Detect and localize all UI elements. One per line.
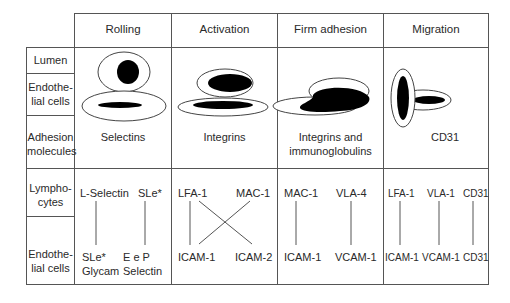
activation-endothelial-0: ICAM-1 bbox=[178, 250, 215, 264]
migration-lymphocyte-2: CD31 bbox=[463, 187, 489, 201]
migration-endothelial-2: CD31 bbox=[463, 251, 489, 265]
firm-adhesion-lymphocyte-0: MAC-1 bbox=[284, 186, 318, 200]
migration-endothelial-1: VCAM-1 bbox=[422, 251, 460, 265]
rolling-lymphocyte-0: L-Selectin bbox=[80, 186, 129, 200]
rolling-endothelial-1: E e P Selectin bbox=[123, 250, 162, 278]
adhesion-migration: CD31 bbox=[430, 130, 460, 144]
activation-lymphocyte-1: MAC-1 bbox=[236, 186, 270, 200]
migration-lymphocyte-0: LFA-1 bbox=[388, 187, 415, 201]
rolling-cell-illustration bbox=[82, 52, 166, 121]
activation-endothelial-1: ICAM-2 bbox=[235, 250, 272, 264]
firm-adhesion-endothelial-0: ICAM-1 bbox=[284, 250, 321, 264]
connector-lines bbox=[96, 201, 473, 245]
firm-adhesion-endothelial-1: VCAM-1 bbox=[335, 250, 377, 264]
firm-adhesion-lymphocyte-1: VLA-4 bbox=[336, 186, 367, 200]
adhesion-firm-adhesion: Integrins and immunoglobulins bbox=[278, 130, 383, 158]
activation-lymphocyte-0: LFA-1 bbox=[178, 186, 207, 200]
rolling-lymphocyte-1: SLe* bbox=[138, 186, 162, 200]
activation-cell-illustration bbox=[178, 69, 268, 116]
migration-endothelial-0: ICAM-1 bbox=[385, 251, 419, 265]
migration-cell-illustration bbox=[391, 69, 451, 127]
migration-lymphocyte-1: VLA-1 bbox=[427, 187, 455, 201]
adhesion-rolling: Selectins bbox=[75, 130, 171, 144]
adhesion-activation: Integrins bbox=[172, 130, 277, 144]
firm-adhesion-cell-illustration bbox=[273, 78, 369, 115]
rolling-endothelial-0: SLe* Glycam bbox=[82, 250, 119, 278]
